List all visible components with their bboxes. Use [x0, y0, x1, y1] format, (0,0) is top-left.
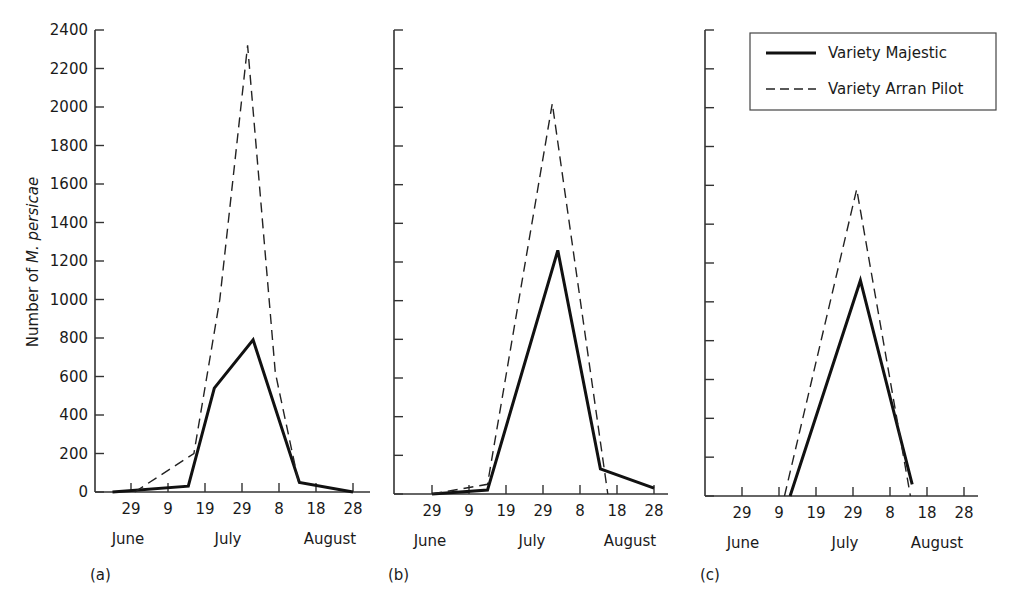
panel-label-c: (c)	[700, 566, 720, 584]
legend: Variety Majestic Variety Arran Pilot	[750, 33, 996, 110]
panel-b-chart: 299192981828JuneJulyAugust	[394, 30, 668, 550]
y-axis-label: Number of M. persicae	[24, 177, 42, 347]
x-tick-label: 18	[917, 504, 936, 522]
x-tick-label: 29	[732, 504, 751, 522]
month-label: June	[413, 532, 447, 550]
month-label: June	[726, 534, 760, 552]
y-tick-label: 1600	[50, 175, 88, 193]
y-tick-label: 2200	[50, 60, 88, 78]
y-tick-label: 1800	[50, 137, 88, 155]
x-tick-label: 29	[121, 500, 140, 518]
month-label: July	[518, 532, 546, 550]
y-tick-label: 1000	[50, 291, 88, 309]
y-tick-label: 2000	[50, 98, 88, 116]
x-tick-label: 28	[954, 504, 973, 522]
y-tick-label: 0	[78, 483, 88, 501]
legend-label-arran-pilot: Variety Arran Pilot	[828, 80, 963, 98]
y-tick-label: 400	[59, 406, 88, 424]
y-tick-label: 1400	[50, 214, 88, 232]
month-label: June	[111, 530, 145, 548]
x-tick-label: 29	[843, 504, 862, 522]
y-tick-label: 800	[59, 329, 88, 347]
month-label: July	[831, 534, 859, 552]
series-majestic-line	[432, 250, 654, 494]
x-tick-label: 29	[422, 502, 441, 520]
legend-label-majestic: Variety Majestic	[828, 44, 947, 62]
x-tick-label: 19	[496, 502, 515, 520]
x-tick-label: 29	[533, 502, 552, 520]
y-tick-label: 200	[59, 445, 88, 463]
x-tick-label: 28	[644, 502, 663, 520]
x-tick-label: 19	[806, 504, 825, 522]
series-arran-pilot-line	[785, 189, 911, 496]
panel-label-a: (a)	[90, 566, 111, 584]
panel-label-b: (b)	[388, 566, 409, 584]
month-label: August	[304, 530, 357, 548]
x-tick-label: 8	[274, 500, 284, 518]
month-label: August	[604, 532, 657, 550]
y-tick-label: 1200	[50, 252, 88, 270]
x-tick-label: 8	[575, 502, 585, 520]
x-tick-label: 18	[306, 500, 325, 518]
y-tick-label: 600	[59, 368, 88, 386]
month-label: July	[214, 530, 242, 548]
series-arran-pilot-line	[432, 104, 608, 495]
x-tick-label: 9	[464, 502, 474, 520]
x-tick-label: 8	[885, 504, 895, 522]
series-majestic-line	[790, 281, 912, 497]
x-tick-label: 29	[232, 500, 251, 518]
x-tick-label: 28	[343, 500, 362, 518]
x-tick-label: 18	[607, 502, 626, 520]
x-tick-label: 9	[774, 504, 784, 522]
panel-a-chart: 0200400600800100012001400160018002000220…	[50, 21, 370, 548]
series-arran-pilot-line	[135, 45, 300, 492]
series-majestic-line	[113, 340, 354, 492]
figure: 0200400600800100012001400160018002000220…	[0, 0, 1011, 604]
month-label: August	[911, 534, 964, 552]
x-tick-label: 9	[163, 500, 173, 518]
y-tick-label: 2400	[50, 21, 88, 39]
x-tick-label: 19	[195, 500, 214, 518]
